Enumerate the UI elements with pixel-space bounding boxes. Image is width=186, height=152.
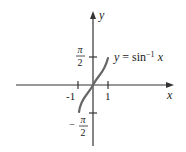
y-tick-label-pi2: π 2 <box>76 44 85 68</box>
inverse-sine-graph: y x -1 1 π 2 − π 2 y = sin−1 x <box>0 0 186 152</box>
equation-label: y = sin−1 x <box>113 50 164 64</box>
x-axis-label: x <box>166 88 173 102</box>
svg-text:π: π <box>80 114 86 125</box>
y-tick-label-negpi2: − π 2 <box>69 114 88 138</box>
y-axis-arrow-icon <box>90 11 96 19</box>
y-axis-label: y <box>98 8 105 22</box>
svg-text:−: − <box>69 119 75 130</box>
svg-text:π: π <box>77 44 83 55</box>
x-tick-label-neg1: -1 <box>66 90 75 102</box>
svg-text:2: 2 <box>78 57 83 68</box>
x-tick-label-1: 1 <box>105 90 111 102</box>
svg-text:2: 2 <box>81 127 86 138</box>
